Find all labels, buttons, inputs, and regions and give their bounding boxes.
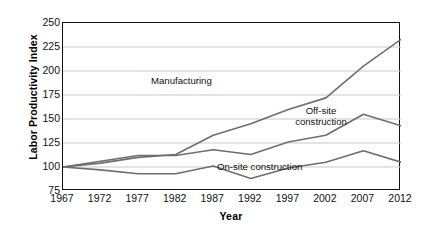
- offsite-label-line2: construction: [295, 116, 347, 127]
- y-axis-tick-labels: 75100125150175200225250: [24, 14, 60, 197]
- y-tick-label: 125: [24, 137, 60, 148]
- x-tick-label: 1997: [267, 192, 307, 205]
- x-tick-label: 1972: [80, 192, 120, 205]
- plot-area: Manufacturing Off-site construction On-s…: [62, 22, 400, 190]
- x-tick-label: 1977: [117, 192, 157, 205]
- x-tick-label: 1967: [42, 192, 82, 205]
- x-tick-label: 1992: [230, 192, 270, 205]
- offsite-label-line1: Off-site: [306, 105, 337, 116]
- x-tick-label: 2012: [380, 192, 420, 205]
- y-tick-label: 200: [24, 65, 60, 76]
- x-axis-title: Year: [62, 210, 400, 222]
- series-line-manufacturing: [63, 39, 401, 167]
- x-axis-tick-labels: 1967197219771982198719921997200220072012: [62, 192, 400, 208]
- series-annotation-offsite-construction: Off-site construction: [279, 105, 363, 127]
- x-tick-label: 1987: [192, 192, 232, 205]
- x-tick-label: 2002: [305, 192, 345, 205]
- labor-productivity-line-chart: Labor Productivity Index 751001251501752…: [0, 0, 428, 233]
- series-annotation-onsite-construction: On-site construction: [217, 161, 302, 172]
- y-tick-label: 250: [24, 17, 60, 28]
- y-tick-label: 175: [24, 89, 60, 100]
- y-tick-label: 150: [24, 113, 60, 124]
- y-tick-label: 100: [24, 161, 60, 172]
- series-annotation-manufacturing: Manufacturing: [151, 75, 212, 86]
- y-tick-label: 225: [24, 41, 60, 52]
- x-tick-label: 2007: [342, 192, 382, 205]
- x-tick-label: 1982: [155, 192, 195, 205]
